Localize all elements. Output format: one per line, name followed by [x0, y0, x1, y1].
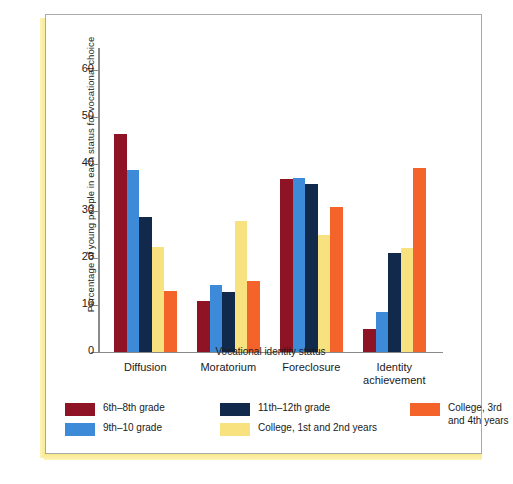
legend-item: 11th–12th grade	[220, 402, 400, 416]
legend-label: 11th–12th grade	[258, 402, 330, 415]
bar-chart: Percentage of young people in each statu…	[45, 14, 482, 454]
legend-item: College, 1st and 2nd years	[220, 422, 400, 436]
y-tick-label: 0	[88, 344, 94, 356]
bar	[293, 178, 306, 352]
y-tick-label: 30	[82, 203, 94, 215]
y-tick-label: 60	[82, 62, 94, 74]
legend-item: College, 3rd and 4th years	[410, 402, 513, 427]
y-tick-label: 20	[82, 250, 94, 262]
legend-column-3: College, 3rd and 4th years	[410, 402, 513, 433]
legend-item: 9th–10 grade	[65, 422, 215, 436]
x-axis-group-label-line: Moratorium	[183, 361, 273, 374]
y-tick-label: 50	[82, 109, 94, 121]
x-axis-group-label-line: achievement	[349, 374, 439, 387]
x-axis-group-label: Foreclosure	[266, 361, 356, 374]
bar	[280, 179, 293, 351]
legend-column-1: 6th–8th grade9th–10 grade	[65, 402, 215, 442]
bar	[388, 253, 401, 352]
bar	[318, 235, 331, 352]
legend-swatch	[410, 403, 440, 416]
x-axis-group-label: Diffusion	[100, 361, 190, 374]
legend-swatch	[65, 423, 95, 436]
x-axis-group-label-line: Foreclosure	[266, 361, 356, 374]
legend-swatch	[220, 423, 250, 436]
bar	[197, 301, 210, 351]
x-axis-group-label-line: Identity	[349, 361, 439, 374]
x-axis-group-label: Identityachievement	[349, 361, 439, 387]
bar	[235, 221, 248, 351]
plot-area: 0102030405060 DiffusionMoratoriumForeclo…	[98, 48, 438, 353]
legend-swatch	[65, 403, 95, 416]
legend-column-2: 11th–12th gradeCollege, 1st and 2nd year…	[220, 402, 400, 442]
bar	[152, 247, 165, 352]
bar	[127, 170, 140, 352]
bar	[164, 291, 177, 351]
y-axis-line	[98, 48, 100, 353]
x-axis-group-label-line: Diffusion	[100, 361, 190, 374]
bar	[222, 292, 235, 351]
bar	[210, 285, 223, 352]
bar	[330, 207, 343, 352]
bar	[114, 134, 127, 351]
bar	[401, 248, 414, 352]
bar	[305, 184, 318, 351]
y-tick-label: 10	[82, 297, 94, 309]
bar	[247, 281, 260, 352]
bar	[413, 168, 426, 352]
bar	[139, 217, 152, 352]
legend-label: 9th–10 grade	[103, 422, 162, 435]
legend-label: College, 1st and 2nd years	[258, 422, 377, 435]
x-axis-title: Vocational identity status	[98, 346, 443, 357]
legend-label: College, 3rd and 4th years	[448, 402, 509, 427]
x-axis-group-label: Moratorium	[183, 361, 273, 374]
y-tick-label: 40	[82, 156, 94, 168]
legend-item: 6th–8th grade	[65, 402, 215, 416]
legend-swatch	[220, 403, 250, 416]
legend-label: 6th–8th grade	[103, 402, 165, 415]
